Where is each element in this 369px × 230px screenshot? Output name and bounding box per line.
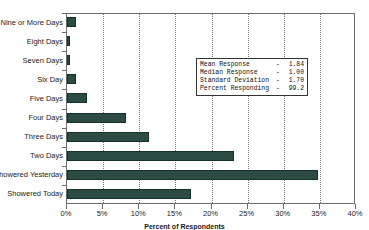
plot-area <box>66 13 355 204</box>
bar <box>67 151 234 161</box>
bar <box>67 189 191 199</box>
bar <box>67 132 149 142</box>
plot-inner <box>67 14 354 203</box>
statistics-row: Mean Response-1.84 <box>200 61 304 69</box>
statistics-dash: - <box>274 77 282 85</box>
statistics-dash: - <box>274 85 282 93</box>
statistics-row: Percent Responding-99.2 <box>200 85 304 93</box>
x-axis-tick-label: 20% <box>203 209 218 218</box>
bar <box>67 36 70 46</box>
y-axis-tick-label: Nine or More Days <box>0 18 63 27</box>
bar-row <box>67 33 356 52</box>
statistics-row: Standard Deviation-1.70 <box>200 77 304 85</box>
y-axis-tick-label: Five Days <box>30 94 63 103</box>
y-axis-tick-label: Showered Yesterday <box>0 170 63 179</box>
bar-row <box>67 148 356 167</box>
x-axis-tick-label: 5% <box>97 209 108 218</box>
chart-container: Nine or More DaysEight DaysSeven DaysSix… <box>0 0 369 230</box>
chart-title-clipped <box>0 0 369 5</box>
x-axis-tick-label: 35% <box>311 209 326 218</box>
statistics-label: Mean Response <box>200 61 274 69</box>
statistics-box: Mean Response-1.84Median Response-1.00St… <box>196 58 308 96</box>
statistics-value: 99.2 <box>282 85 304 93</box>
y-axis-tick-label: Two Days <box>30 151 63 160</box>
bar-row <box>67 110 356 129</box>
x-axis-tick-label: 40% <box>347 209 362 218</box>
y-axis-tick-label: Showered Today <box>7 189 63 198</box>
y-axis-tick-label: Eight Days <box>27 37 63 46</box>
x-axis-tick-label: 15% <box>167 209 182 218</box>
y-axis-labels: Nine or More DaysEight DaysSeven DaysSix… <box>0 13 66 204</box>
bar-row <box>67 14 356 33</box>
statistics-label: Standard Deviation <box>200 77 274 85</box>
y-axis-tick-label: Four Days <box>28 113 63 122</box>
x-axis-tick-label: 10% <box>131 209 146 218</box>
statistics-label: Median Response <box>200 69 274 77</box>
statistics-row: Median Response-1.00 <box>200 69 304 77</box>
bar <box>67 74 76 84</box>
statistics-value: 1.70 <box>282 77 304 85</box>
statistics-dash: - <box>274 69 282 77</box>
bar <box>67 17 76 27</box>
y-axis-tick-label: Seven Days <box>23 56 63 65</box>
y-axis-tick-label: Three Days <box>24 132 63 141</box>
statistics-dash: - <box>274 61 282 69</box>
bar <box>67 170 318 180</box>
bar <box>67 55 70 65</box>
bar-row <box>67 186 356 205</box>
x-axis-tick-label: 25% <box>239 209 254 218</box>
bar-row <box>67 167 356 186</box>
y-axis-tick-label: Six Day <box>37 75 63 84</box>
bar <box>67 113 126 123</box>
statistics-value: 1.84 <box>282 61 304 69</box>
x-axis-tick-label: 0% <box>61 209 72 218</box>
bar-row <box>67 129 356 148</box>
statistics-label: Percent Responding <box>200 85 274 93</box>
x-axis-title: Percent of Respondents <box>0 222 369 230</box>
statistics-value: 1.00 <box>282 69 304 77</box>
bar <box>67 93 87 103</box>
x-axis-tick-label: 30% <box>275 209 290 218</box>
